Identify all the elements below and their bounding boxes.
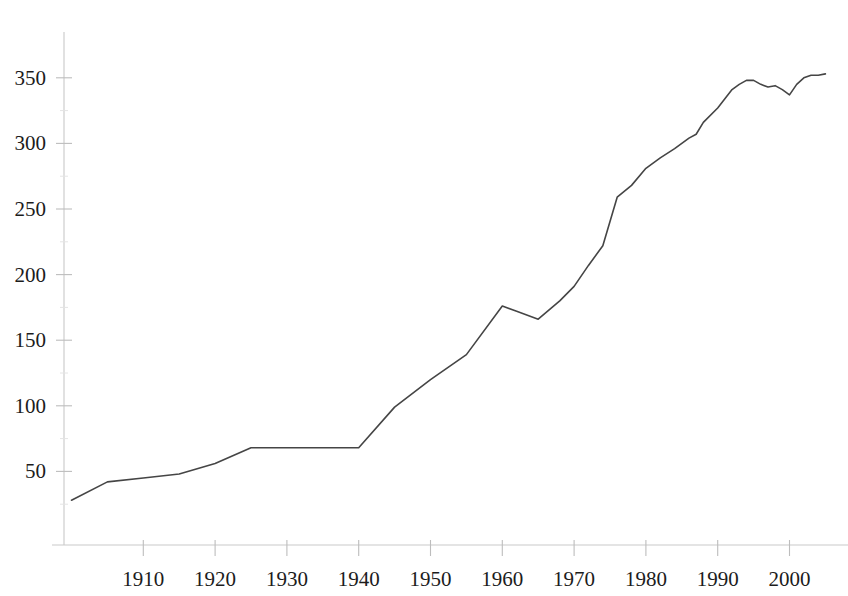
chart-background (0, 0, 848, 596)
y-tick-label: 350 (15, 66, 47, 90)
x-tick-label: 1950 (410, 567, 452, 591)
x-tick-label: 1960 (481, 567, 523, 591)
x-tick-label: 1910 (122, 567, 164, 591)
y-tick-label: 150 (15, 328, 47, 352)
line-chart: 50100150200250300350 1910192019301940195… (0, 0, 848, 596)
y-tick-label: 300 (15, 131, 47, 155)
x-tick-label: 1970 (553, 567, 595, 591)
x-tick-label: 1930 (266, 567, 308, 591)
chart-container: 50100150200250300350 1910192019301940195… (0, 0, 848, 596)
y-tick-label: 100 (15, 394, 47, 418)
y-tick-label: 250 (15, 197, 47, 221)
x-tick-label: 1990 (697, 567, 739, 591)
x-tick-label: 1940 (338, 567, 380, 591)
y-tick-label: 200 (15, 263, 47, 287)
y-tick-label: 50 (25, 459, 46, 483)
x-tick-label: 1920 (194, 567, 236, 591)
x-tick-label: 1980 (625, 567, 667, 591)
x-tick-label: 2000 (769, 567, 811, 591)
